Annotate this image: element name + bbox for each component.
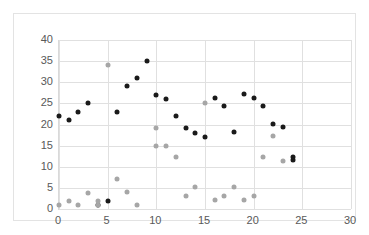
y-axis-tick-label: 40 xyxy=(31,34,53,45)
data-point xyxy=(86,101,91,106)
data-point xyxy=(125,190,130,195)
data-point xyxy=(105,198,110,203)
data-point xyxy=(271,133,276,138)
chart-frame: 0510152025303540 051015202530 xyxy=(13,13,356,221)
y-axis-tick-label: 10 xyxy=(31,161,53,172)
data-point xyxy=(154,143,159,148)
data-point xyxy=(241,92,246,97)
gridline-vertical xyxy=(351,40,352,209)
x-axis-tick-label: 25 xyxy=(295,215,307,226)
data-point xyxy=(232,130,237,135)
data-point xyxy=(203,100,208,105)
data-point xyxy=(241,198,246,203)
data-point xyxy=(125,84,130,89)
y-axis-tick-label: 25 xyxy=(31,97,53,108)
data-point xyxy=(86,190,91,195)
data-point xyxy=(193,130,198,135)
gridline-vertical xyxy=(156,40,157,209)
gridline-vertical xyxy=(254,40,255,209)
data-point xyxy=(105,63,110,68)
data-point xyxy=(280,125,285,130)
data-point xyxy=(66,118,71,123)
y-axis-tick-label: 0 xyxy=(31,203,53,214)
data-point xyxy=(183,125,188,130)
y-axis-tick-label: 30 xyxy=(31,76,53,87)
x-axis-tick-label: 15 xyxy=(198,215,210,226)
data-point xyxy=(193,185,198,190)
plot-area xyxy=(58,40,351,210)
data-point xyxy=(280,158,285,163)
data-point xyxy=(232,185,237,190)
data-point xyxy=(57,114,62,119)
data-point xyxy=(222,193,227,198)
data-point xyxy=(154,126,159,131)
data-point xyxy=(261,154,266,159)
data-point xyxy=(115,177,120,182)
x-axis-tick-label: 5 xyxy=(104,215,110,226)
data-point xyxy=(251,193,256,198)
x-axis-tick-label: 30 xyxy=(344,215,356,226)
data-point xyxy=(212,198,217,203)
data-point xyxy=(251,95,256,100)
data-point xyxy=(76,203,81,208)
x-axis-tick-label: 20 xyxy=(247,215,259,226)
data-point xyxy=(203,134,208,139)
data-point xyxy=(115,109,120,114)
data-point xyxy=(134,76,139,81)
data-point xyxy=(164,97,169,102)
gridline-vertical xyxy=(59,40,60,209)
gridline-vertical xyxy=(302,40,303,209)
data-point xyxy=(154,92,159,97)
y-axis-tick-label: 20 xyxy=(31,119,53,130)
data-point xyxy=(183,193,188,198)
x-axis-tick-label: 0 xyxy=(55,215,61,226)
data-point xyxy=(222,104,227,109)
data-point xyxy=(95,203,100,208)
y-axis-tick-label: 35 xyxy=(31,55,53,66)
data-point xyxy=(173,155,178,160)
data-point xyxy=(76,109,81,114)
data-point xyxy=(173,113,178,118)
scatter-chart-figure: 0510152025303540 051015202530 xyxy=(0,0,369,235)
data-point xyxy=(290,157,295,162)
data-point xyxy=(57,203,62,208)
gridline-vertical xyxy=(205,40,206,209)
data-point xyxy=(271,121,276,126)
data-point xyxy=(66,199,71,204)
y-axis-tick-label: 5 xyxy=(31,182,53,193)
y-axis-tick-label: 15 xyxy=(31,140,53,151)
x-axis-tick-label: 10 xyxy=(149,215,161,226)
data-point xyxy=(134,202,139,207)
data-point xyxy=(144,59,149,64)
gridline-horizontal xyxy=(59,209,351,210)
data-point xyxy=(261,103,266,108)
data-point xyxy=(212,96,217,101)
data-point xyxy=(164,143,169,148)
